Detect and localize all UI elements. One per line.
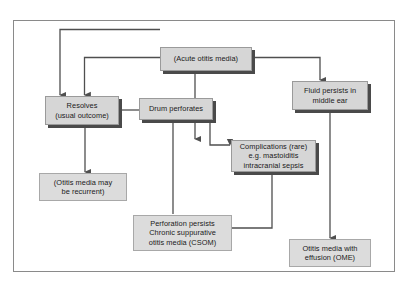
node-label: middle ear (312, 96, 347, 105)
node-label: be recurrent) (62, 187, 105, 196)
node-fluid-persists[interactable]: Fluid persists in middle ear (292, 81, 368, 110)
node-acute-otitis-media[interactable]: (Acute otitis media) (160, 47, 252, 71)
edge-drum-to-complications (210, 120, 230, 145)
node-label: otitis media (CSOM) (149, 238, 216, 247)
edge-aom-to-fluid (252, 58, 320, 81)
edge-csom-to-complications (232, 172, 272, 228)
edge-aom-to-drum (85, 58, 161, 96)
node-drum-perforates[interactable]: Drum perforates (139, 98, 213, 120)
node-csom[interactable]: Perforation persists Chronic suppurative… (133, 215, 232, 251)
node-label: (Otitis media may (54, 178, 112, 187)
node-label: Fluid persists in (304, 86, 356, 95)
node-label: Drum perforates (149, 104, 203, 113)
node-label: e.g. mastoiditis (248, 151, 298, 160)
node-label: effusion (OME) (305, 253, 355, 262)
node-resolves[interactable]: Resolves (usual outcome) (45, 96, 119, 125)
node-label: (Acute otitis media) (174, 54, 238, 63)
node-ome[interactable]: Otitis media with effusion (OME) (289, 239, 371, 267)
node-label: Perforation persists (150, 219, 215, 228)
node-label: Otitis media with (302, 244, 357, 253)
edge-aom-to-resolves (60, 30, 160, 96)
node-label: Chronic suppurative (149, 228, 216, 237)
node-complications[interactable]: Complications (rare) e.g. mastoiditis in… (231, 140, 316, 172)
node-label: Complications (rare) (240, 142, 308, 151)
node-recurrent[interactable]: (Otitis media may be recurrent) (39, 173, 127, 201)
node-label: (usual outcome) (55, 111, 109, 120)
node-label: intracranial sepsis (243, 161, 303, 170)
flowchart-figure: (Acute otitis media) Resolves (usual out… (0, 0, 412, 292)
node-label: Resolves (67, 101, 98, 110)
